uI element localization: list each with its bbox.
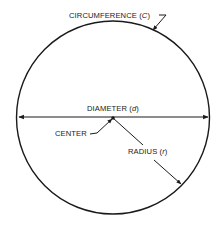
radius-line-lower <box>154 160 181 184</box>
center-leader <box>90 119 112 134</box>
center-label: CENTER <box>55 129 87 138</box>
radius-line-upper <box>113 118 143 145</box>
circle-diagram: CIRCUMFERENCE (C) DIAMETER (d) CENTER RA… <box>0 0 222 226</box>
circumference-label: CIRCUMFERENCE (C) <box>69 11 150 20</box>
circumference-leader <box>153 15 166 30</box>
radius-label: RADIUS (r) <box>128 147 168 156</box>
diameter-label: DIAMETER (d) <box>87 104 139 113</box>
